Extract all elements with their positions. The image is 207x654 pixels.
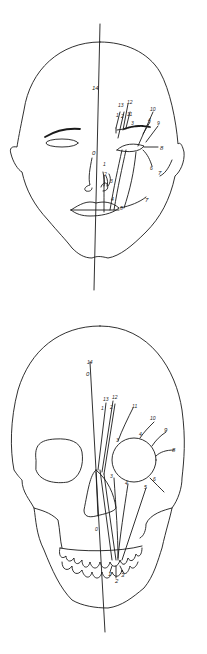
right-maxilla xyxy=(140,508,172,538)
skull-label-10: 10 xyxy=(150,415,156,421)
left-eye xyxy=(46,139,78,147)
face-label-12: 12 xyxy=(127,99,133,105)
face-leader-lines xyxy=(104,104,172,212)
mouth xyxy=(71,202,119,216)
skull-label-2: 2 xyxy=(109,404,113,410)
face-label-6: 6 xyxy=(150,165,153,171)
skull-panel: 14 0 13 12 1 2 11 3 10 4 9 8 3 4 5 6 0 1… xyxy=(11,326,184,632)
face-label-7-mouth: 7 xyxy=(145,197,149,203)
face-label-14: 14 xyxy=(92,85,99,91)
face-label-4: 4 xyxy=(148,117,151,123)
face-panel: 14 0 13 12 1 2 11 3 10 4 9 8 6 7 1 2 3 4… xyxy=(10,24,184,290)
skull-label-12: 12 xyxy=(112,394,118,400)
face-label-8: 8 xyxy=(160,145,164,151)
skull-labels: 14 0 13 12 1 2 11 3 10 4 9 8 3 4 5 6 0 1… xyxy=(86,359,176,584)
left-eyebrow xyxy=(45,129,80,137)
skull-label-1: 1 xyxy=(101,405,104,411)
left-orbit xyxy=(36,439,83,483)
skull-label-2-teeth: 2 xyxy=(114,578,119,584)
face-labels: 14 0 13 12 1 2 11 3 10 4 9 8 6 7 1 2 3 4… xyxy=(92,85,164,211)
face-label-1-nose: 1 xyxy=(103,161,106,167)
face-label-5-mouth: 5 xyxy=(120,205,123,211)
skull-outline xyxy=(11,326,184,608)
face-label-9: 9 xyxy=(157,120,160,126)
face-label-2: 2 xyxy=(120,113,124,119)
skull-label-9: 9 xyxy=(164,427,168,433)
skull-label-1-teeth: 1 xyxy=(108,571,111,577)
face-label-4-mouth: 4 xyxy=(111,196,114,202)
skull-label-0-top: 0 xyxy=(86,371,90,377)
skull-label-4-orbit: 4 xyxy=(139,431,142,437)
skull-label-11: 11 xyxy=(132,403,137,409)
skull-label-6: 6 xyxy=(153,476,156,482)
skull-label-4-lower: 4 xyxy=(125,480,128,486)
skull-label-5: 5 xyxy=(144,484,147,490)
face-label-0: 0 xyxy=(92,150,96,156)
skull-label-3-lower: 3 xyxy=(110,473,113,479)
anatomy-diagram: 14 0 13 12 1 2 11 3 10 4 9 8 6 7 1 2 3 4… xyxy=(0,0,207,654)
face-label-1: 1 xyxy=(116,112,119,118)
face-label-2-nose: 2 xyxy=(103,171,107,177)
skull-label-8: 8 xyxy=(172,447,176,453)
left-maxilla xyxy=(34,508,62,548)
face-label-11: 11 xyxy=(127,111,132,117)
lower-teeth xyxy=(62,562,138,578)
face-midline xyxy=(94,24,100,290)
face-label-3-nose: 3 xyxy=(110,178,113,184)
right-eye xyxy=(117,144,144,152)
skull-label-3-orbit: 3 xyxy=(116,437,119,443)
face-label-3: 3 xyxy=(131,120,134,126)
nose-left xyxy=(85,158,92,191)
skull-label-14: 14 xyxy=(87,359,93,365)
face-label-13: 13 xyxy=(118,102,124,108)
teeth-gumline xyxy=(60,546,142,551)
right-orbit xyxy=(112,438,156,482)
skull-label-13: 13 xyxy=(103,396,109,402)
skull-leader-lines xyxy=(98,401,174,578)
face-label-10: 10 xyxy=(150,106,156,112)
skull-label-0-lower: 0 xyxy=(95,526,98,532)
